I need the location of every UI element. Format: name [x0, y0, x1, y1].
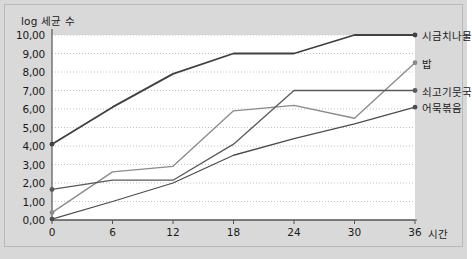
figure-caption — [0, 250, 467, 259]
x-tick-label: 0 — [37, 226, 67, 238]
y-tick-label: 6,00 — [5, 103, 45, 115]
series-marker-2 — [413, 88, 418, 93]
series-marker-0 — [50, 142, 55, 147]
chart-canvas — [52, 35, 415, 220]
x-tick-label: 30 — [340, 226, 370, 238]
y-tick-label: 8,00 — [5, 66, 45, 78]
series-marker-3 — [413, 105, 418, 110]
y-tick-label: 10,00 — [5, 29, 45, 41]
series-line-1 — [52, 63, 415, 213]
y-tick-label: 0,00 — [5, 214, 45, 226]
y-tick-label: 7,00 — [5, 85, 45, 97]
plot-area — [52, 35, 415, 220]
x-tick-label: 36 — [400, 226, 430, 238]
y-tick-label: 2,00 — [5, 177, 45, 189]
y-tick-label: 5,00 — [5, 122, 45, 134]
series-label-1: 밥 — [422, 55, 432, 70]
series-label-0: 시금치나물 — [422, 28, 472, 43]
series-marker-1 — [50, 210, 55, 215]
series-line-3 — [52, 107, 415, 219]
chart-frame: log 세균 수 0,001,002,003,004,005,006,007,0… — [4, 4, 463, 247]
series-marker-0 — [413, 33, 418, 38]
y-tick-label: 1,00 — [5, 196, 45, 208]
series-label-3: 어묵볶음 — [422, 100, 462, 115]
x-tick-label: 6 — [98, 226, 128, 238]
series-marker-3 — [50, 217, 55, 222]
series-marker-2 — [50, 187, 55, 192]
x-tick-label: 12 — [158, 226, 188, 238]
y-axis-title: log 세균 수 — [21, 13, 75, 28]
x-tick-label: 24 — [279, 226, 309, 238]
series-line-2 — [52, 91, 415, 190]
y-tick-label: 9,00 — [5, 48, 45, 60]
x-axis-title: 시간 — [428, 226, 448, 241]
series-label-2: 쇠고기뭇국 — [422, 83, 472, 98]
y-tick-label: 4,00 — [5, 140, 45, 152]
y-tick-label: 3,00 — [5, 159, 45, 171]
x-tick-label: 18 — [219, 226, 249, 238]
series-marker-1 — [413, 60, 418, 65]
